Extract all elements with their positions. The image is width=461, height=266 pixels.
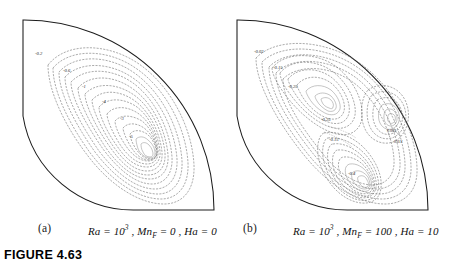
contour-line [321,98,333,109]
panel-parameters-a: Ra = 103 , MnF = 0 , Ha = 0 [88,223,217,240]
contour-label: -0.4 [348,171,356,176]
contour-line [53,53,188,199]
contour-label: -3 [120,116,125,121]
ra-symbol-a: Ra [88,225,100,237]
contour-label: -0.6 [63,68,71,73]
contour-label: -5 [129,134,134,139]
contour-label: -4 [102,99,107,104]
contour-label: -0.25 [288,84,298,89]
ra-symbol-b: Ra [293,225,305,237]
contour-line [388,114,396,124]
contour-label: -1 [82,84,86,89]
contour-label: -0.15 [273,65,283,70]
mn-subscript-a: F [152,231,157,240]
contour-line [306,86,340,115]
contour-line [136,137,155,158]
panel-parameters-b: Ra = 103 , MnF = 100 , Ha = 10 [293,223,439,240]
contour-line [71,71,172,184]
ra-base-a: 10 [114,225,125,237]
contour-label: -0.2 [35,51,43,56]
figure-page: -0.2 -0.6 -1 -4 -3 -5 [0,0,461,266]
mn-symbol-b: Mn [342,225,357,237]
ra-exponent-a: 3 [125,223,129,232]
ha-symbol-a: Ha [184,225,198,237]
mn-subscript-b: F [357,231,362,240]
mn-value-a: 0 [170,225,176,237]
contour-label: -0.25 [321,117,331,122]
contour-label: 0.011 [394,139,403,144]
panel-tag-b: (b) [243,222,257,234]
ha-value-a: 0 [211,225,217,237]
contour-plot-a: -0.2 -0.6 -1 -4 -3 -5 [14,10,229,215]
contour-label: -0.03 [254,49,264,54]
contour-line [115,116,157,161]
panel-tag-a: (a) [38,222,51,234]
ra-base-b: 10 [319,225,330,237]
caption-row: (a) Ra = 103 , MnF = 0 , Ha = 0 (b) Ra =… [0,222,461,246]
mn-value-b: 100 [375,225,392,237]
contour-line [280,62,355,128]
contour-panel-b: -0.03 -0.15 -0.25 -0.25 -0.15 -0.4 0.003… [228,10,443,215]
ha-value-b: 10 [427,225,438,237]
contour-plot-b: -0.03 -0.15 -0.25 -0.25 -0.15 -0.4 0.003… [228,10,443,215]
contour-label: 0.003 [387,128,396,133]
figure-number: FIGURE 4.63 [4,248,82,262]
contour-line [318,132,382,203]
contour-panel-a: -0.2 -0.6 -1 -4 -3 -5 [14,10,229,215]
contour-label: -0.15 [329,137,339,142]
mn-symbol-a: Mn [137,225,152,237]
contour-line [323,138,379,201]
ra-exponent-b: 3 [330,223,334,232]
contour-line [78,78,168,179]
ha-symbol-b: Ha [400,225,414,237]
